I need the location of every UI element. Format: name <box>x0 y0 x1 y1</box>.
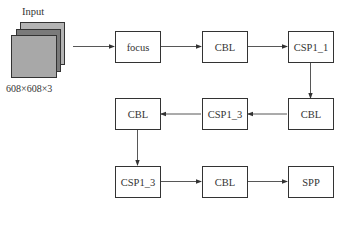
node-csp1-1-label: CSP1_1 <box>294 42 328 53</box>
node-cbl-4-label: CBL <box>215 177 235 188</box>
node-focus: focus <box>115 31 161 63</box>
node-cbl-3: CBL <box>115 98 161 130</box>
node-csp1-3-b-label: CSP1_3 <box>121 177 155 188</box>
node-cbl-4: CBL <box>202 166 248 198</box>
node-cbl-1: CBL <box>202 31 248 63</box>
node-csp1-3-a-label: CSP1_3 <box>208 109 242 120</box>
node-cbl-2: CBL <box>288 98 334 130</box>
node-spp-label: SPP <box>302 177 320 188</box>
node-cbl-1-label: CBL <box>215 42 235 53</box>
node-spp: SPP <box>288 166 334 198</box>
node-csp1-3-b: CSP1_3 <box>115 166 161 198</box>
node-csp1-1: CSP1_1 <box>288 31 334 63</box>
node-csp1-3-a: CSP1_3 <box>202 98 248 130</box>
node-cbl-2-label: CBL <box>301 109 321 120</box>
node-focus-label: focus <box>127 42 150 53</box>
node-cbl-3-label: CBL <box>128 109 148 120</box>
